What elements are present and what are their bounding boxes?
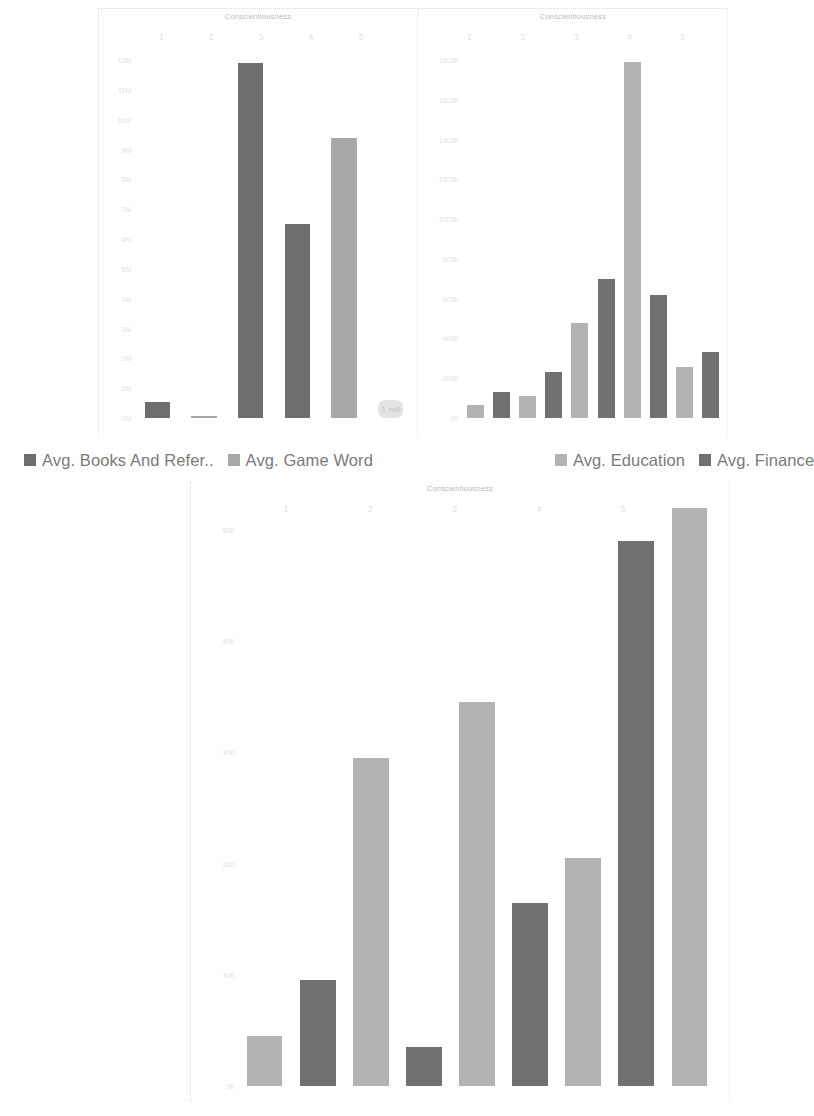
y-tick-label: 9M — [121, 146, 134, 153]
y-tick-label: 1800K — [439, 57, 462, 64]
chart-legend: Avg. Books And Refer..Avg. Game WordAvg.… — [24, 447, 794, 473]
y-tick-label: 800K — [443, 255, 462, 262]
bar[interactable] — [545, 372, 562, 418]
plot-area: 12M11M10M9M8M7M6M5M4M3M2M1M0M 1 mil — [134, 60, 414, 418]
y-tick-label: 50K — [223, 527, 238, 534]
bar[interactable] — [565, 858, 601, 1086]
plot-area: 50K40K30K20K10K0K — [238, 530, 716, 1086]
bar[interactable] — [300, 980, 336, 1086]
x-tick-label: 3 — [452, 504, 457, 514]
y-tick-label: 0K — [450, 415, 462, 422]
bar[interactable] — [459, 702, 495, 1086]
x-axis-ticks: 12345 — [190, 504, 730, 518]
bar[interactable] — [467, 405, 484, 418]
x-tick-label: 5 — [680, 32, 685, 42]
y-tick-label: 12M — [117, 57, 134, 64]
y-tick-label: 0M — [121, 415, 134, 422]
x-tick-label: 4 — [309, 32, 314, 42]
y-tick-label: 8M — [121, 176, 134, 183]
x-tick-label: 5 — [359, 32, 364, 42]
chart-bottom[interactable]: Conscientiousness 12345 50K40K30K20K10K0… — [190, 482, 730, 1102]
x-tick-label: 4 — [627, 32, 632, 42]
bar[interactable] — [618, 541, 654, 1086]
x-tick-label: 1 — [284, 504, 289, 514]
bar[interactable] — [285, 224, 310, 418]
legend-finance[interactable]: Avg. Finance — [699, 451, 814, 470]
bar[interactable] — [702, 352, 719, 418]
legend-label: Avg. Education — [573, 451, 685, 470]
y-tick-label: 600K — [443, 295, 462, 302]
y-tick-label: 1000K — [439, 216, 462, 223]
bar[interactable] — [598, 279, 615, 418]
legend-label: Avg. Books And Refer.. — [42, 451, 214, 470]
chart-top-left[interactable]: Conscientiousness 12345 12M11M10M9M8M7M6… — [98, 8, 418, 436]
x-tick-label: 3 — [574, 32, 579, 42]
legend-label: Avg. Finance — [717, 451, 814, 470]
bar[interactable] — [676, 367, 693, 418]
y-tick-label: 1400K — [439, 136, 462, 143]
legend-books-and-reference[interactable]: Avg. Books And Refer.. — [24, 451, 214, 470]
y-tick-label: 1M — [121, 385, 134, 392]
chart-title: Conscientiousness — [418, 12, 728, 21]
y-tick-label: 10M — [117, 116, 134, 123]
bar[interactable] — [624, 62, 641, 418]
bar[interactable] — [571, 323, 588, 418]
y-tick-label: 0K — [226, 1083, 238, 1090]
y-tick-label: 40K — [223, 638, 238, 645]
y-tick-label: 2M — [121, 355, 134, 362]
y-tick-label: 11M — [118, 86, 134, 93]
plot-area: 1800K1600K1400K1200K1000K800K600K400K200… — [462, 60, 724, 418]
legend-label: Avg. Game Word — [246, 451, 373, 470]
y-tick-label: 5M — [121, 265, 134, 272]
legend-swatch-icon — [555, 454, 567, 466]
y-tick-label: 7M — [121, 206, 134, 213]
legend-swatch-icon — [228, 454, 240, 466]
chart-top-right[interactable]: Conscientiousness 12345 1800K1600K1400K1… — [418, 8, 728, 436]
bar[interactable] — [191, 416, 216, 418]
legend-game-word[interactable]: Avg. Game Word — [228, 451, 373, 470]
bar[interactable] — [238, 63, 263, 418]
bar[interactable] — [512, 903, 548, 1086]
chart-title: Conscientiousness — [98, 12, 418, 21]
bar[interactable] — [650, 295, 667, 418]
x-axis-ticks: 12345 — [418, 32, 728, 46]
bar[interactable] — [493, 392, 510, 418]
legend-education[interactable]: Avg. Education — [555, 451, 685, 470]
y-tick-label: 200K — [443, 375, 462, 382]
x-tick-label: 5 — [621, 504, 626, 514]
legend-swatch-icon — [24, 454, 36, 466]
y-tick-label: 10K — [223, 971, 238, 978]
bar[interactable] — [519, 396, 536, 418]
bar[interactable] — [353, 758, 389, 1086]
x-tick-label: 4 — [536, 504, 541, 514]
bar[interactable] — [331, 138, 356, 418]
x-tick-label: 2 — [520, 32, 525, 42]
y-tick-label: 30K — [223, 749, 238, 756]
y-tick-label: 6M — [121, 236, 134, 243]
y-tick-label: 1600K — [439, 96, 462, 103]
legend-swatch-icon — [699, 454, 711, 466]
chart-title: Conscientiousness — [190, 484, 730, 493]
bar[interactable] — [672, 508, 708, 1086]
x-tick-label: 2 — [368, 504, 373, 514]
y-tick-label: 20K — [223, 860, 238, 867]
y-tick-label: 400K — [443, 335, 462, 342]
bar[interactable] — [406, 1047, 442, 1086]
x-tick-label: 3 — [259, 32, 264, 42]
y-tick-label: 4M — [121, 295, 134, 302]
x-tick-label: 1 — [467, 32, 472, 42]
y-tick-label: 1200K — [439, 176, 462, 183]
x-tick-label: 2 — [209, 32, 214, 42]
x-tick-label: 1 — [159, 32, 164, 42]
bar[interactable] — [247, 1036, 283, 1086]
y-tick-label: 3M — [121, 325, 134, 332]
x-axis-ticks: 12345 — [98, 32, 418, 46]
bar[interactable] — [145, 402, 170, 418]
data-label-pill: 1 mil — [378, 400, 403, 418]
